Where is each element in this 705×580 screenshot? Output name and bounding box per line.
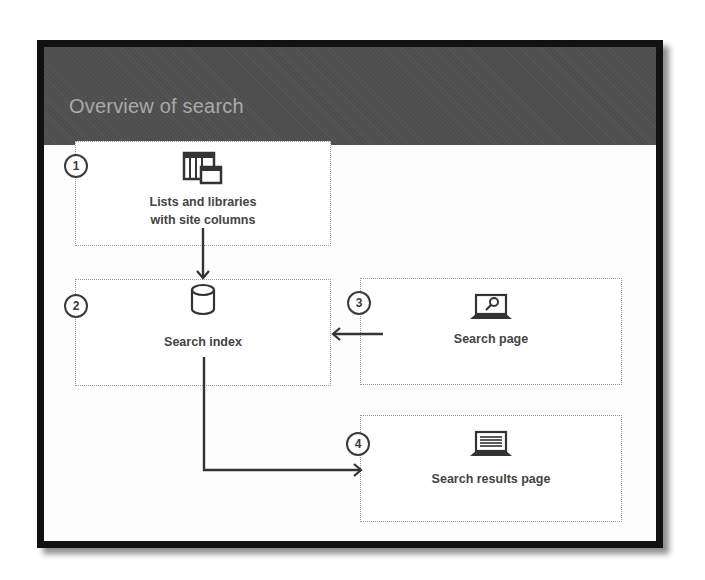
list-library-icon <box>182 151 224 191</box>
step-3-label: Search page <box>361 331 621 348</box>
step-2-label: Search index <box>76 334 330 351</box>
step-1-box: Lists and libraries with site columns <box>75 141 331 246</box>
step-4-box: Search results page <box>360 415 622 522</box>
database-cylinder-icon <box>189 283 217 321</box>
step-1-label-line1: Lists and libraries <box>76 194 330 211</box>
slide-header: Overview of search <box>44 47 656 145</box>
laptop-search-icon <box>468 293 514 325</box>
step-4-label: Search results page <box>361 471 621 488</box>
canvas: Overview of search Lists and libraries w… <box>0 0 705 580</box>
step-4-badge: 4 <box>346 432 370 456</box>
step-3-badge: 3 <box>347 291 371 315</box>
step-3-box: Search page <box>360 278 622 385</box>
step-2-badge: 2 <box>64 294 88 318</box>
step-1-label-line2: with site columns <box>76 212 330 229</box>
step-1-badge: 1 <box>64 154 88 178</box>
laptop-results-icon <box>468 430 514 462</box>
step-2-box: Search index <box>75 279 331 386</box>
slide-title: Overview of search <box>69 95 244 118</box>
